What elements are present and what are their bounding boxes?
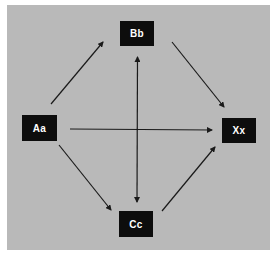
node-aa: Aa: [22, 115, 57, 141]
node-xx: Xx: [222, 118, 256, 143]
node-cc-label: Cc: [129, 219, 142, 230]
edge-aa-to-bb: [51, 42, 103, 104]
node-aa-label: Aa: [33, 123, 46, 134]
node-bb-label: Bb: [130, 28, 144, 39]
edge-aa-to-xx: [70, 129, 212, 130]
edge-bb-cc-bidirectional: [137, 57, 138, 202]
edge-cc-to-xx: [162, 147, 215, 211]
node-bb: Bb: [120, 21, 154, 46]
edge-bb-to-xx: [172, 42, 224, 107]
edge-aa-to-cc: [59, 145, 111, 210]
node-xx-label: Xx: [233, 125, 246, 136]
node-cc: Cc: [119, 211, 153, 237]
